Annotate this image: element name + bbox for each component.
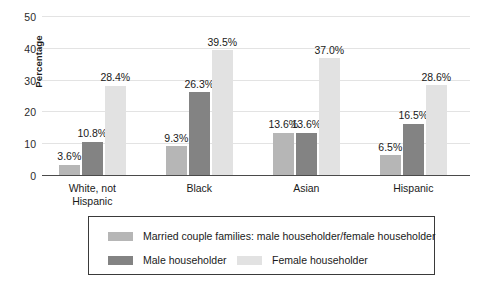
y-axis-tick-labels: 01020304050 [0,0,40,284]
bar-value-label: 28.6% [415,72,457,83]
bar-female_householder-black [212,50,233,176]
y-tick-label-50: 50 [0,12,36,23]
legend-swatch-icon [108,232,133,241]
y-tick-label-0: 0 [0,171,36,182]
bar-value-label: 28.4% [94,72,136,83]
bar-value-label: 39.5% [201,37,243,48]
bar-male_householder-black [189,92,210,176]
legend-label: Female householder [272,255,368,266]
legend-label: Male householder [143,255,226,266]
legend-row-1: Married couple families: male householde… [89,225,434,247]
x-category-label: Asian [256,182,356,195]
gridline-50 [42,16,470,17]
plot-area: 3.6%10.8%28.4%9.3%26.3%39.5%13.6%13.6%37… [42,17,470,176]
legend-row-2: Male householderFemale householder [89,249,434,271]
legend-swatch-icon [237,256,262,265]
legend-swatch-icon [108,256,133,265]
x-axis-line [42,175,470,177]
y-tick-label-20: 20 [0,107,36,118]
bar-male_householder-white-not-hispanic [82,142,103,176]
y-tick-label-30: 30 [0,76,36,87]
grouped-bar-chart: Percentage 01020304050 3.6%10.8%28.4%9.3… [0,0,481,284]
bar-female_householder-asian [319,58,340,176]
bar-female_householder-hispanic [426,85,447,176]
legend-entry[interactable]: Male householder [108,249,226,271]
bar-female_householder-white-not-hispanic [105,86,126,176]
bar-value-label: 37.0% [308,45,350,56]
bar-married_couple-black [166,146,187,176]
y-tick-label-40: 40 [0,44,36,55]
legend-entry[interactable]: Married couple families: male householde… [108,225,435,247]
x-category-label: Hispanic [363,182,463,195]
bar-married_couple-asian [273,133,294,176]
y-tick-label-10: 10 [0,139,36,150]
bar-male_householder-hispanic [403,124,424,176]
chart-legend: Married couple families: male householde… [88,216,435,275]
x-category-label: Black [149,182,249,195]
bar-married_couple-hispanic [380,155,401,176]
x-category-label: White, not Hispanic [42,182,142,207]
bar-male_householder-asian [296,133,317,176]
legend-label: Married couple families: male householde… [143,231,435,242]
gridline-40 [42,48,470,49]
legend-entry[interactable]: Female householder [237,249,368,271]
